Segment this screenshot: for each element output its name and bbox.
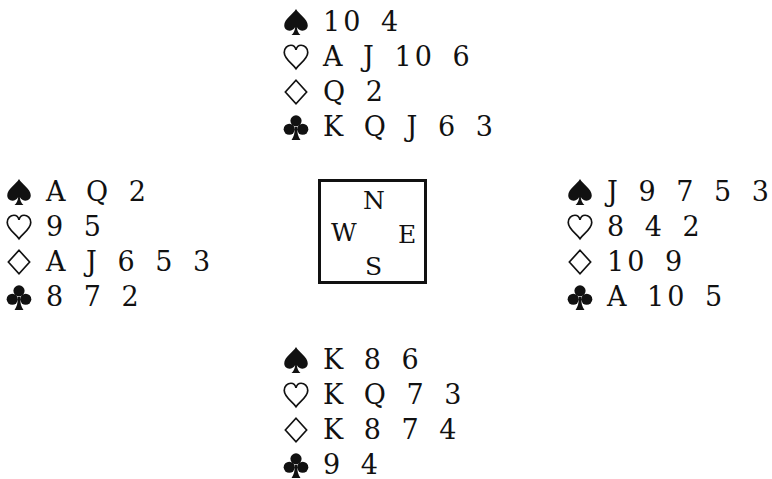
west-spades-cards: A Q 2	[46, 178, 149, 205]
spade-icon	[281, 8, 311, 36]
south-spades-cards: K 8 6	[323, 346, 422, 373]
compass-south-label: S	[365, 254, 382, 279]
north-spades-row: 10 4	[281, 4, 496, 39]
north-diamonds-cards: Q 2	[323, 78, 386, 105]
heart-icon	[281, 381, 311, 409]
compass-north-label: N	[363, 188, 385, 213]
west-diamonds-row: A J 6 5 3	[4, 244, 213, 279]
spade-icon	[281, 346, 311, 374]
north-clubs-cards: K Q J 6 3	[323, 113, 496, 140]
diamond-icon	[565, 248, 595, 276]
north-spades-cards: 10 4	[323, 8, 401, 35]
east-hearts-cards: 8 4 2	[607, 213, 703, 240]
west-clubs-cards: 8 7 2	[46, 283, 142, 310]
west-diamonds-cards: A J 6 5 3	[46, 248, 213, 275]
diamond-icon	[281, 416, 311, 444]
east-hearts-row: 8 4 2	[565, 209, 772, 244]
club-icon	[281, 113, 311, 141]
west-spades-row: A Q 2	[4, 174, 213, 209]
east-clubs-row: A 10 5	[565, 279, 772, 314]
club-icon	[281, 451, 311, 479]
club-icon	[565, 283, 595, 311]
west-clubs-row: 8 7 2	[4, 279, 213, 314]
south-clubs-cards: 9 4	[323, 451, 381, 478]
west-hand: A Q 2 9 5 A J 6 5 3 8 7 2	[4, 174, 213, 314]
south-diamonds-row: K 8 7 4	[281, 412, 464, 447]
spade-icon	[565, 178, 595, 206]
diamond-icon	[4, 248, 34, 276]
compass-box: N W E S	[318, 179, 427, 284]
spade-icon	[4, 178, 34, 206]
compass-east-label: E	[398, 222, 416, 247]
east-clubs-cards: A 10 5	[607, 283, 725, 310]
west-hearts-cards: 9 5	[46, 213, 104, 240]
west-hearts-row: 9 5	[4, 209, 213, 244]
north-hearts-cards: A J 10 6	[323, 43, 473, 70]
east-spades-row: J 9 7 5 3	[565, 174, 772, 209]
north-hearts-row: A J 10 6	[281, 39, 496, 74]
south-spades-row: K 8 6	[281, 342, 464, 377]
east-diamonds-cards: 10 9	[607, 248, 685, 275]
north-hand: 10 4 A J 10 6 Q 2 K Q J 6 3	[281, 4, 496, 144]
south-diamonds-cards: K 8 7 4	[323, 416, 459, 443]
east-spades-cards: J 9 7 5 3	[607, 178, 772, 205]
heart-icon	[4, 213, 34, 241]
north-clubs-row: K Q J 6 3	[281, 109, 496, 144]
south-hearts-cards: K Q 7 3	[323, 381, 464, 408]
south-clubs-row: 9 4	[281, 447, 464, 479]
north-diamonds-row: Q 2	[281, 74, 496, 109]
south-hand: K 8 6 K Q 7 3 K 8 7 4 9 4	[281, 342, 464, 479]
compass-west-label: W	[331, 220, 357, 245]
diamond-icon	[281, 78, 311, 106]
east-hand: J 9 7 5 3 8 4 2 10 9 A 10 5	[565, 174, 772, 314]
club-icon	[4, 283, 34, 311]
heart-icon	[565, 213, 595, 241]
east-diamonds-row: 10 9	[565, 244, 772, 279]
south-hearts-row: K Q 7 3	[281, 377, 464, 412]
heart-icon	[281, 43, 311, 71]
